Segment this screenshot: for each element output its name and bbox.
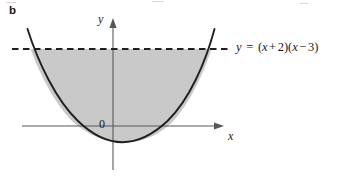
equation-factor1-op: + [268,40,278,54]
equation-factor1-var: x [262,40,268,54]
origin-label: 0 [99,118,105,130]
equation-label: y = (x+2)(x−3) [236,41,318,54]
equation-factor2-close: ) [314,40,318,54]
x-axis-label: x [228,130,233,142]
equation-lhs: y [236,40,242,54]
y-axis-arrowhead [109,18,116,28]
equation-equals: = [245,40,255,54]
y-axis-label: y [98,13,103,25]
figure-panel: b y x 0 y = (x+2)(x−3) [0,0,341,178]
equation-factor2-op: − [298,40,308,54]
x-axis-arrowhead [214,122,224,129]
parabola-figure [0,0,341,178]
equation-factor2-var: x [292,40,298,54]
